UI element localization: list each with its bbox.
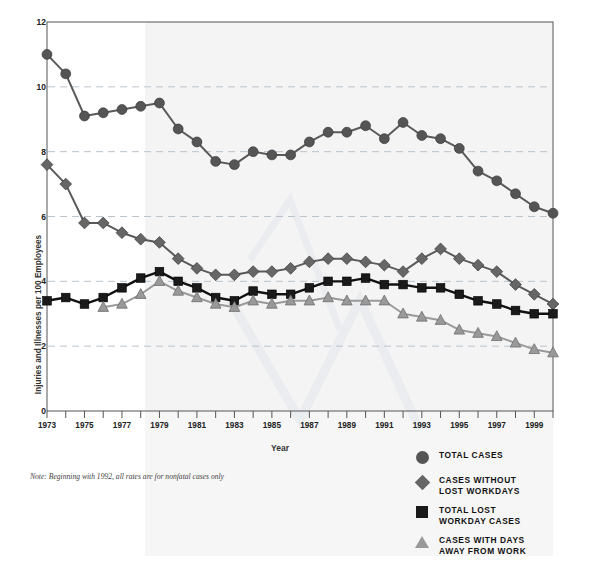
data-point-marker xyxy=(549,309,558,318)
data-point-marker xyxy=(116,227,128,239)
data-point-marker xyxy=(304,137,314,147)
legend-label: CASES WITHOUTLOST WORKDAYS xyxy=(439,473,520,496)
data-point-marker xyxy=(530,309,539,318)
legend-item-1[interactable]: TOTAL CASES xyxy=(413,448,613,466)
legend-label: TOTAL CASES xyxy=(439,448,503,461)
data-point-marker xyxy=(492,300,501,309)
data-point-marker xyxy=(211,156,221,166)
legend-label-line1: CASES WITHOUT xyxy=(439,475,520,486)
data-point-marker xyxy=(267,150,277,160)
x-tick-label: 1989 xyxy=(332,421,362,430)
data-point-marker xyxy=(248,147,258,157)
data-point-marker xyxy=(380,280,389,289)
chart-note: Note: Beginning with 1992, all rates are… xyxy=(30,472,330,481)
data-point-marker xyxy=(79,217,91,229)
data-point-marker xyxy=(511,306,520,315)
data-point-marker xyxy=(135,289,146,299)
legend-label-line2: AWAY FROM WORK xyxy=(439,546,526,557)
legend-label-line1: CASES WITH DAYS xyxy=(439,535,526,546)
data-point-marker xyxy=(323,127,333,137)
data-point-marker xyxy=(117,105,127,115)
data-point-marker xyxy=(43,296,52,305)
data-point-marker xyxy=(342,127,352,137)
diamond-icon xyxy=(413,473,431,491)
data-point-marker xyxy=(361,121,371,131)
data-point-marker xyxy=(417,131,427,141)
data-point-marker xyxy=(229,160,239,170)
legend-label: TOTAL LOSTWORKDAY CASES xyxy=(439,503,521,526)
data-point-marker xyxy=(398,118,408,128)
data-point-marker xyxy=(474,296,483,305)
legend-item-2[interactable]: CASES WITHOUTLOST WORKDAYS xyxy=(413,473,613,496)
chart-legend: TOTAL CASESCASES WITHOUTLOST WORKDAYSTOT… xyxy=(413,448,613,563)
data-point-marker xyxy=(80,111,90,121)
legend-item-3[interactable]: TOTAL LOSTWORKDAY CASES xyxy=(413,503,613,526)
data-point-marker xyxy=(361,274,370,283)
data-point-marker xyxy=(98,108,108,118)
x-tick-label: 1985 xyxy=(257,421,287,430)
data-point-marker xyxy=(155,98,165,108)
data-point-marker xyxy=(492,176,502,186)
x-tick-label: 1987 xyxy=(294,421,324,430)
data-point-marker xyxy=(548,208,558,218)
data-point-marker xyxy=(80,300,89,309)
x-tick-label: 1979 xyxy=(144,421,174,430)
legend-label-line2: WORKDAY CASES xyxy=(439,516,521,527)
data-point-marker xyxy=(343,277,352,286)
square-icon xyxy=(413,503,431,521)
chart-container: Injuries and Illnesses per 100 Employees… xyxy=(0,0,616,566)
data-point-marker xyxy=(135,233,147,245)
data-point-marker xyxy=(454,143,464,153)
x-tick-label: 1995 xyxy=(444,421,474,430)
data-point-marker xyxy=(324,277,333,286)
x-tick-label: 1975 xyxy=(69,421,99,430)
data-point-marker xyxy=(473,166,483,176)
data-point-marker xyxy=(61,69,71,79)
data-point-marker xyxy=(399,280,408,289)
circle-icon xyxy=(413,448,431,466)
data-point-marker xyxy=(136,101,146,111)
x-tick-label: 1993 xyxy=(407,421,437,430)
data-point-marker xyxy=(99,293,108,302)
data-point-marker xyxy=(173,124,183,134)
legend-label-line2: LOST WORKDAYS xyxy=(439,486,520,497)
x-tick-label: 1977 xyxy=(107,421,137,430)
data-point-marker xyxy=(249,287,258,296)
data-point-marker xyxy=(118,283,127,292)
data-point-marker xyxy=(436,134,446,144)
x-tick-label: 1981 xyxy=(182,421,212,430)
data-point-marker xyxy=(417,283,426,292)
data-point-marker xyxy=(379,134,389,144)
data-point-marker xyxy=(61,293,70,302)
x-tick-label: 1973 xyxy=(32,421,62,430)
x-tick-label: 1997 xyxy=(482,421,512,430)
data-point-marker xyxy=(436,283,445,292)
data-point-marker xyxy=(455,290,464,299)
data-point-marker xyxy=(268,290,277,299)
x-axis-ticks: 1973197519771979198119831985198719891991… xyxy=(0,421,616,437)
legend-item-4[interactable]: CASES WITH DAYSAWAY FROM WORK xyxy=(413,533,613,556)
data-point-marker xyxy=(529,202,539,212)
x-tick-label: 1991 xyxy=(369,421,399,430)
legend-label: CASES WITH DAYSAWAY FROM WORK xyxy=(439,533,526,556)
data-point-marker xyxy=(97,217,109,229)
x-tick-label: 1983 xyxy=(219,421,249,430)
data-point-marker xyxy=(305,283,314,292)
data-point-marker xyxy=(174,277,183,286)
data-point-marker xyxy=(286,150,296,160)
triangle-icon xyxy=(413,533,431,551)
data-point-marker xyxy=(193,283,202,292)
data-point-marker xyxy=(155,267,164,276)
legend-label-line1: TOTAL LOST xyxy=(439,505,521,516)
data-point-marker xyxy=(192,137,202,147)
data-point-marker xyxy=(42,49,52,59)
x-tick-label: 1999 xyxy=(519,421,549,430)
data-point-marker xyxy=(511,189,521,199)
data-point-marker xyxy=(136,274,145,283)
